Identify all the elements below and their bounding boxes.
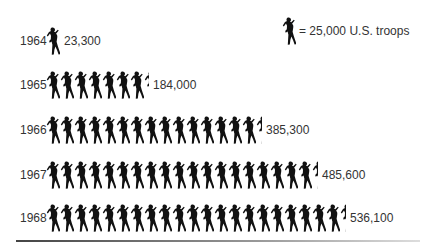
soldier-icon [88,70,102,100]
partial-soldier-icon [340,203,346,233]
soldier-icon [130,70,144,100]
soldier-icon [116,160,130,190]
soldier-icon [228,203,242,233]
value-label: 536,100 [350,211,393,225]
soldier-icon [88,203,102,233]
soldier-icon [74,115,88,145]
value-label: 385,300 [266,123,309,137]
soldier-icon [186,115,200,145]
soldier-icon [144,203,158,233]
soldier-icon [102,70,116,100]
soldier-icon [60,115,74,145]
year-label: 1968 [20,211,47,225]
soldier-icon [116,203,130,233]
icon-row: 385,300 [46,115,309,145]
soldier-icon [144,115,158,145]
soldier-icon [158,160,172,190]
icon-row: 23,300 [46,26,101,56]
soldier-icon [228,160,242,190]
value-label: 23,300 [64,34,101,48]
soldier-icon [130,115,144,145]
soldier-icon [214,115,228,145]
soldier-icon [130,203,144,233]
soldier-icon [46,160,60,190]
soldier-icon [172,160,186,190]
year-label: 1967 [20,168,47,182]
soldier-icon [74,160,88,190]
partial-soldier-icon [312,160,318,190]
soldier-icon [326,203,340,233]
soldier-icon [186,160,200,190]
soldier-icon [102,160,116,190]
legend-label: = 25,000 U.S. troops [299,24,409,38]
soldier-icon [74,203,88,233]
icon-row: 536,100 [46,203,393,233]
legend: = 25,000 U.S. troops [282,16,409,46]
soldier-icon [228,115,242,145]
soldier-icon [256,203,270,233]
partial-soldier-icon [256,115,262,145]
value-label: 184,000 [153,78,196,92]
soldier-icon [298,160,312,190]
soldier-icon [60,203,74,233]
icon-row: 184,000 [46,70,196,100]
soldier-icon [46,70,60,100]
soldier-icon [270,160,284,190]
soldier-icon [60,70,74,100]
soldier-icon [242,160,256,190]
soldier-icon [102,203,116,233]
soldier-icon [200,115,214,145]
soldier-icon [200,160,214,190]
soldier-icon [88,115,102,145]
year-label: 1966 [20,123,47,137]
year-label: 1965 [20,78,47,92]
baseline-divider [16,240,420,242]
soldier-icon [60,160,74,190]
soldier-icon [46,26,60,56]
soldier-icon [282,16,296,46]
partial-soldier-icon [144,70,149,100]
soldier-icon [116,70,130,100]
soldier-icon [200,203,214,233]
soldier-icon [88,160,102,190]
soldier-icon [46,115,60,145]
soldier-icon [172,115,186,145]
soldier-icon [130,160,144,190]
icon-row: 485,600 [46,160,365,190]
soldier-icon [298,203,312,233]
soldier-icon [214,160,228,190]
soldier-icon [158,203,172,233]
value-label: 485,600 [322,168,365,182]
soldier-icon [116,115,130,145]
soldier-icon [46,203,60,233]
soldier-icon [270,203,284,233]
soldier-icon [158,115,172,145]
soldier-icon [102,115,116,145]
soldier-icon [144,160,158,190]
soldier-icon [242,115,256,145]
year-label: 1964 [20,34,47,48]
soldier-icon [74,70,88,100]
soldier-icon [186,203,200,233]
soldier-icon [312,203,326,233]
soldier-icon [214,203,228,233]
soldier-icon [284,203,298,233]
soldier-icon [284,160,298,190]
soldier-icon [242,203,256,233]
soldier-icon [172,203,186,233]
soldier-icon [256,160,270,190]
